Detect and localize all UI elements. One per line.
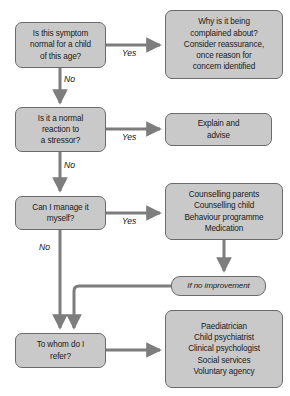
node-outcome-explain-advise[interactable]: Explain and advise (165, 113, 272, 146)
node-r1-line2: complained about? (170, 28, 278, 39)
edge-label-no-1: No (64, 74, 75, 84)
edge-label-yes-3: Yes (122, 216, 136, 226)
node-r1-line5: concern identified (170, 61, 278, 72)
node-question-symptom-normal[interactable]: Is this symptom normal for a child of th… (15, 22, 106, 68)
node-question-normal-reaction[interactable]: Is it a normal reaction to a stressor? (15, 107, 106, 152)
node-r1-line1: Why is it being (170, 16, 278, 27)
node-question-whom-refer[interactable]: To whom do I refer? (15, 333, 106, 368)
node-r2-line1: Explain and (170, 118, 267, 129)
node-if-no-improvement[interactable]: If no improvement (171, 276, 266, 296)
node-improvement-label: If no improvement (176, 280, 261, 291)
node-q4-line2: refer? (20, 351, 101, 362)
node-r3-line4: Medication (170, 223, 278, 234)
node-outcome-why-complained[interactable]: Why is it being complained about? Consid… (165, 10, 283, 79)
node-r4-line5: Voluntary agency (170, 366, 278, 377)
node-r3-line2: Counselling child (170, 200, 278, 211)
node-question-manage-myself[interactable]: Can I manage it myself? (15, 196, 106, 230)
node-r4-line3: Clinical psychologist (170, 343, 278, 354)
node-r2-line2: advise (170, 130, 267, 141)
edge-label-yes-2: Yes (122, 132, 136, 142)
node-q1-line2: normal for a child (20, 39, 101, 50)
node-q2-line2: reaction to (20, 124, 101, 135)
node-r3-line3: Behaviour programme (170, 212, 278, 223)
node-q1-line3: of this age? (20, 51, 101, 62)
node-r4-line4: Social services (170, 355, 278, 366)
node-outcome-referral-list[interactable]: Paediatrician Child psychiatrist Clinica… (165, 310, 283, 388)
node-r4-line2: Child psychiatrist (170, 332, 278, 343)
edge-label-no-2: No (64, 160, 75, 170)
flowchart-canvas: Is this symptom normal for a child of th… (0, 0, 290, 396)
node-r1-line3: Consider reassurance, (170, 39, 278, 50)
node-outcome-treatment-options[interactable]: Counselling parents Counselling child Be… (165, 183, 283, 240)
node-q4-line1: To whom do I (20, 339, 101, 350)
edge-label-no-3: No (39, 242, 50, 252)
node-r4-line1: Paediatrician (170, 321, 278, 332)
node-r3-line1: Counselling parents (170, 189, 278, 200)
node-q2-line1: Is it a normal (20, 113, 101, 124)
node-q3-line2: myself? (20, 213, 101, 224)
node-q2-line3: a stressor? (20, 135, 101, 146)
node-q3-line1: Can I manage it (20, 202, 101, 213)
node-q1-line1: Is this symptom (20, 28, 101, 39)
node-r1-line4: once reason for (170, 50, 278, 61)
connector-improvement-q4 (74, 286, 171, 328)
edge-label-yes-1: Yes (122, 48, 136, 58)
